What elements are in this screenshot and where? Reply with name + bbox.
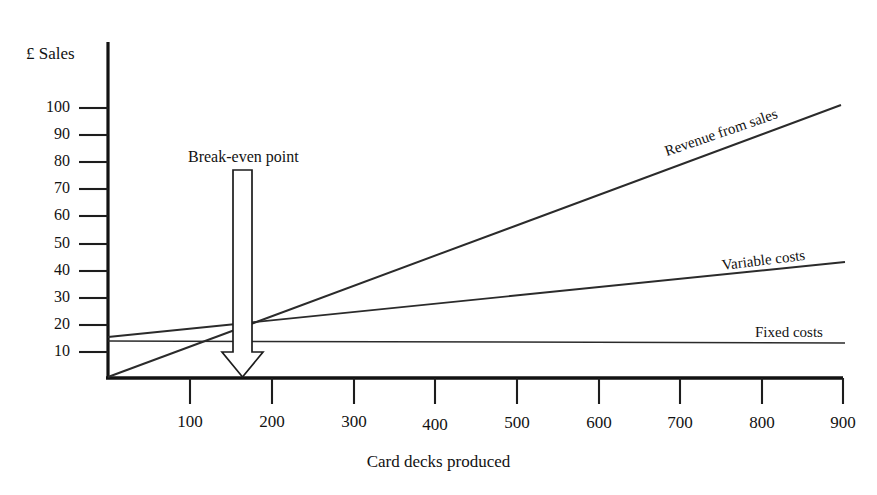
x-tick-label-100: 100 [160, 412, 220, 432]
x-tick-label-900: 900 [813, 413, 873, 433]
series-line-revenue [108, 105, 841, 377]
annotation-label-break-even-point: Break-even point [188, 148, 299, 166]
x-tick-label-500: 500 [487, 413, 547, 433]
series-line-fixed-costs [108, 341, 845, 343]
series-label-fixed-costs: Fixed costs [755, 324, 823, 341]
y-tick-label-10: 10 [24, 342, 70, 360]
x-tick-label-600: 600 [569, 413, 629, 433]
y-tick-label-100: 100 [24, 98, 70, 116]
break-even-chart: £ Sales Card decks produced 100 90 80 70… [0, 0, 877, 495]
x-tick-label-200: 200 [242, 412, 302, 432]
x-tick-label-400: 400 [405, 415, 465, 435]
x-tick-label-800: 800 [732, 413, 792, 433]
y-tick-label-40: 40 [24, 261, 70, 279]
series-line-variable-costs [108, 262, 845, 337]
y-tick-label-30: 30 [24, 288, 70, 306]
y-tick-label-20: 20 [24, 315, 70, 333]
x-axis-ticks [190, 378, 843, 404]
y-tick-label-90: 90 [24, 125, 70, 143]
x-tick-label-700: 700 [650, 413, 710, 433]
x-axis-title: Card decks produced [0, 452, 877, 472]
breakeven-arrow-icon [222, 170, 263, 377]
y-axis-ticks [79, 108, 108, 352]
y-tick-label-70: 70 [24, 179, 70, 197]
y-tick-label-80: 80 [24, 152, 70, 170]
y-axis-title: £ Sales [26, 44, 75, 64]
y-tick-label-50: 50 [24, 234, 70, 252]
y-tick-label-60: 60 [24, 206, 70, 224]
x-tick-label-300: 300 [324, 412, 384, 432]
